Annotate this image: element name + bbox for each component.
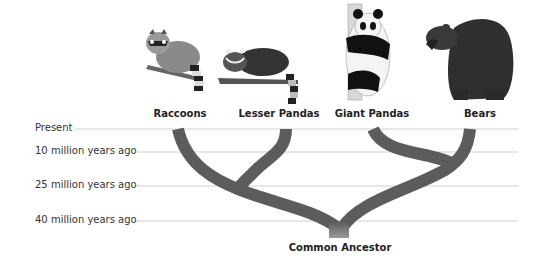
branch-giant-pandas [373,129,455,165]
timeline-label-present: Present [35,122,73,133]
giant-panda-illustration [346,4,390,100]
species-label-giant-pandas: Giant Pandas [335,108,410,119]
red-panda-illustration [218,47,298,104]
trunk-common-ancestor [329,222,349,238]
timeline-label-40mya: 40 million years ago [35,214,137,225]
common-ancestor-label: Common Ancestor [289,242,392,253]
branch-raccoons [178,129,338,228]
timeline-label-25mya: 25 million years ago [35,179,137,190]
species-label-bears: Bears [464,108,496,119]
branch-lesser-pandas [236,129,286,192]
species-label-lesser-pandas: Lesser Pandas [238,108,319,119]
tree-branches [178,129,470,228]
bear-illustration [426,19,513,100]
branch-bears [342,129,470,228]
raccoon-illustration [146,29,204,91]
species-label-raccoons: Raccoons [153,108,206,119]
timeline-label-10mya: 10 million years ago [35,145,137,156]
